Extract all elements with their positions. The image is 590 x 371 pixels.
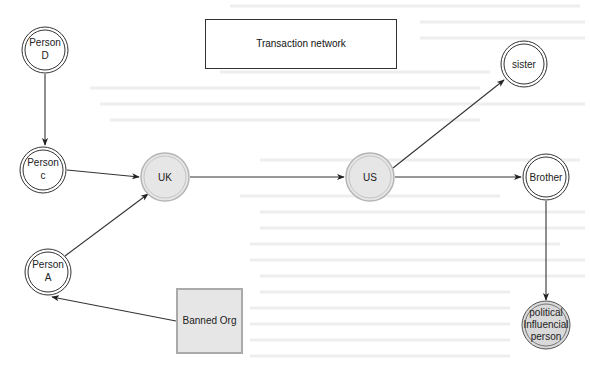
node-uk[interactable]: UK (141, 153, 189, 201)
node-label: sister (512, 59, 537, 70)
edge-persona-to-uk[interactable] (65, 194, 148, 256)
node-label: Person (27, 157, 59, 168)
node-person-a[interactable]: Person A (25, 249, 71, 295)
node-label: US (363, 172, 377, 183)
edge-bannedorg-to-persona[interactable] (52, 297, 176, 321)
edge-personc-to-uk[interactable] (67, 170, 139, 177)
node-label: political (529, 307, 562, 318)
node-label: Banned Org (183, 315, 237, 326)
node-label: Person (32, 259, 64, 270)
node-label: A (45, 272, 52, 283)
edge-us-to-sister[interactable] (393, 80, 504, 168)
node-brother[interactable]: Brother (523, 154, 569, 200)
node-label: person (531, 331, 562, 342)
node-label: D (41, 50, 48, 61)
node-label: UK (158, 172, 172, 183)
diagram-title: Transaction network (256, 38, 347, 49)
transaction-network-diagram: Transaction network Person D Person c Pe… (0, 0, 590, 371)
node-label: Influencial (523, 319, 568, 330)
node-label: c (41, 170, 46, 181)
node-sister[interactable]: sister (501, 41, 547, 87)
node-banned-org[interactable]: Banned Org (177, 289, 242, 353)
node-label: Person (29, 37, 61, 48)
node-label: Brother (530, 172, 563, 183)
node-political-influencial-person[interactable]: political Influencial person (522, 301, 570, 349)
node-person-d[interactable]: Person D (22, 27, 68, 73)
node-us[interactable]: US (346, 153, 394, 201)
node-person-c[interactable]: Person c (20, 147, 66, 193)
title-box: Transaction network (206, 20, 397, 69)
